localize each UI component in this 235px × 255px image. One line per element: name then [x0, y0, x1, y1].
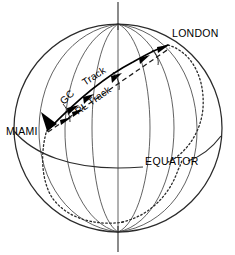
globe-svg: LONDON MIAMI EQUATOR GC Track RL Track — [0, 0, 235, 255]
label-gc-track-gc: GC — [58, 88, 77, 107]
meridian-3 — [92, 24, 118, 232]
back-side-dotted-group — [43, 45, 204, 223]
globe-diagram-figure: LONDON MIAMI EQUATOR GC Track RL Track — [0, 0, 235, 255]
label-equator: EQUATOR — [145, 155, 199, 167]
meridian-2 — [65, 24, 118, 232]
label-miami: MIAMI — [6, 125, 38, 137]
label-gc-track-track: Track — [80, 64, 108, 88]
great-circle-back-arc-left-icon — [43, 133, 124, 223]
gc-arrow-miami-icon — [41, 112, 57, 131]
meridian-group — [39, 24, 197, 232]
label-london: LONDON — [172, 27, 219, 39]
great-circle-back-arc-bottom-icon — [122, 160, 182, 222]
